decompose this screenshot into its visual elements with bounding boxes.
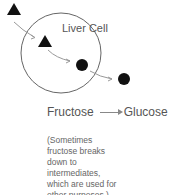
note-line: (Sometimes bbox=[47, 135, 147, 146]
note-line: other purposes.) bbox=[47, 190, 147, 195]
glucose-label: Glucose bbox=[124, 105, 168, 119]
note-text: (Sometimes fructose breaks down to inter… bbox=[47, 135, 147, 195]
note-line: intermediates, bbox=[47, 168, 147, 179]
right-arrow-icon bbox=[100, 112, 120, 113]
glucose-dot-inside bbox=[76, 59, 88, 71]
liver-cell-label: Liver Cell bbox=[62, 22, 108, 34]
conversion-equation: Fructose Glucose bbox=[47, 105, 168, 119]
note-line: fructose breaks bbox=[47, 146, 147, 157]
note-line: down to bbox=[47, 157, 147, 168]
note-line: which are used for bbox=[47, 179, 147, 190]
fructose-label: Fructose bbox=[47, 105, 94, 119]
fructose-triangle-inside bbox=[38, 35, 52, 47]
glucose-dot-outside bbox=[118, 73, 130, 85]
fructose-triangle-outside bbox=[7, 3, 21, 15]
